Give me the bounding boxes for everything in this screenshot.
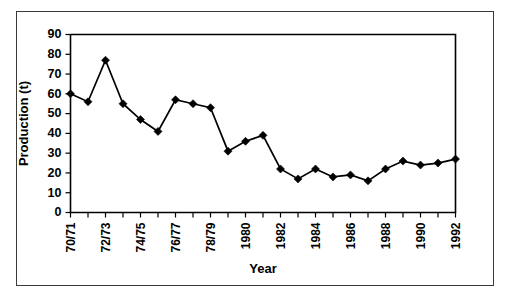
y-tick-label: 50 xyxy=(48,106,62,120)
data-series-line xyxy=(71,60,456,181)
data-point-marker xyxy=(452,155,460,163)
figure-container: 0102030405060708090 70/7172/7374/7576/77… xyxy=(0,0,513,305)
x-tick-label: 74/75 xyxy=(134,222,148,252)
data-point-marker xyxy=(329,173,337,181)
y-tick-label: 40 xyxy=(48,126,62,140)
line-chart: 0102030405060708090 70/7172/7374/7576/77… xyxy=(0,0,513,305)
y-tick-label: 10 xyxy=(48,186,62,200)
x-tick-label: 78/79 xyxy=(204,222,218,252)
data-point-marker xyxy=(102,56,110,64)
data-point-marker xyxy=(189,100,197,108)
y-tick-label: 60 xyxy=(48,87,62,101)
x-axis-tick-labels: 70/7172/7374/7576/7778/79198019821984198… xyxy=(64,222,463,252)
data-point-marker xyxy=(277,165,285,173)
y-tick-label: 70 xyxy=(48,67,62,81)
y-axis-title: Production (t) xyxy=(16,81,31,166)
data-point-marker xyxy=(294,175,302,183)
y-tick-label: 30 xyxy=(48,146,62,160)
x-tick-label: 1992 xyxy=(449,222,463,249)
data-point-marker xyxy=(312,165,320,173)
x-tick-label: 1988 xyxy=(379,222,393,249)
data-point-marker xyxy=(434,159,442,167)
data-point-marker xyxy=(399,157,407,165)
data-point-marker xyxy=(242,137,250,145)
y-tick-label: 90 xyxy=(48,27,62,41)
data-point-marker xyxy=(84,98,92,106)
data-point-marker xyxy=(259,131,267,139)
data-point-marker xyxy=(347,171,355,179)
data-point-marker xyxy=(207,104,215,112)
y-axis-tick-labels: 0102030405060708090 xyxy=(48,27,62,219)
x-tick-label: 76/77 xyxy=(169,222,183,252)
axis-frame xyxy=(71,35,456,213)
x-tick-label: 1990 xyxy=(414,222,428,249)
x-tick-label: 70/71 xyxy=(64,222,78,252)
data-point-marker xyxy=(172,96,180,104)
data-point-markers xyxy=(67,56,460,185)
data-point-marker xyxy=(417,161,425,169)
x-tick-label: 1984 xyxy=(309,222,323,249)
y-tick-label: 80 xyxy=(48,47,62,61)
data-point-marker xyxy=(67,90,75,98)
x-tick-label: 1982 xyxy=(274,222,288,249)
x-tick-label: 1980 xyxy=(239,222,253,249)
x-tick-label: 72/73 xyxy=(99,222,113,252)
x-tick-label: 1986 xyxy=(344,222,358,249)
data-point-marker xyxy=(224,147,232,155)
y-tick-label: 20 xyxy=(48,166,62,180)
x-axis-title: Year xyxy=(249,261,276,276)
y-tick-label: 0 xyxy=(55,205,62,219)
